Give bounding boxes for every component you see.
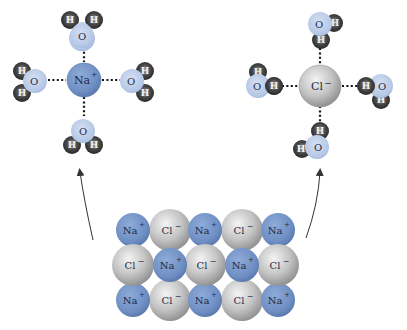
water-molecule-left: H H H O [246,63,283,98]
water-molecule-bottom: H H O [293,122,329,159]
hydrated-chloride-cluster: H H O H H H O H H O H [246,12,393,159]
water-molecule-top: H H O [61,11,103,51]
hydrogen-label: H [141,66,150,76]
nacl-crystal-lattice: Na + Cl − Na + Cl − Na + Na + Cl − Na + … [112,209,299,321]
cl-label: Cl [234,295,245,306]
na-label: Na [160,260,175,271]
hydrogen-label: H [316,126,325,136]
sodium-ion: Na + [67,63,101,97]
hydrogen-label: H [18,88,27,98]
cl-charge: − [175,222,182,231]
na-charge: + [284,291,290,299]
oxygen-label: O [127,76,135,87]
cl-label: Cl [234,225,245,236]
na-charge: + [139,291,145,299]
hydrogen-label: H [66,15,75,25]
oxygen-label: O [253,81,261,92]
na-label: Na [268,225,283,236]
arrow-to-sodium [80,172,93,240]
cl-charge: − [210,257,217,266]
water-molecule-right: H H O [357,74,393,109]
na-label: Na [123,295,138,306]
cl-label: Cl [270,260,281,271]
na-label: Na [268,295,283,306]
water-molecule-left: H H O [13,62,47,102]
na-charge: + [176,256,182,264]
na-charge: + [211,221,217,229]
cl-label: Cl [125,260,136,271]
water-molecule-bottom: H H O [63,119,103,154]
water-molecule-right: H H O [120,62,154,102]
na-label: Na [232,260,247,271]
oxygen-label: O [78,31,86,42]
hydrogen-label: H [68,140,77,150]
cl-charge: − [247,222,254,231]
na-label: Na [123,225,138,236]
cl-charge: − [283,257,290,266]
water-molecule-top: H H O [308,12,343,49]
na-label: Na [195,295,210,306]
hydrogen-label: H [90,140,99,150]
sodium-charge: + [91,70,98,79]
cl-label: Cl [162,295,173,306]
cl-label: Cl [197,260,208,271]
chloride-charge: − [324,78,332,88]
chloride-label: Cl [311,80,323,93]
hydrogen-label: H [362,81,371,91]
cl-charge: − [175,292,182,301]
chloride-ion: Cl − [299,65,341,107]
na-label: Na [195,225,210,236]
lattice-row-2: Cl − Na + Cl − Na + Cl − [112,244,299,286]
na-charge: + [211,291,217,299]
na-charge: + [248,256,254,264]
hydrogen-label: H [270,81,279,91]
oxygen-label: O [378,81,386,92]
nacl-dissolution-diagram: H H O H H O H H O H H [0,0,407,330]
arrow-to-chloride [306,172,320,238]
cl-charge: − [138,257,145,266]
hydrogen-label: H [331,18,340,28]
hydrogen-label: H [90,15,99,25]
cl-label: Cl [162,225,173,236]
sodium-label: Na [74,74,91,87]
hydrogen-label: H [297,144,306,154]
cl-charge: − [247,292,254,301]
oxygen-label: O [30,76,38,87]
oxygen-label: O [315,19,323,30]
na-charge: + [284,221,290,229]
oxygen-label: O [314,142,322,153]
hydrated-sodium-cluster: H H O H H O H H O H H [13,11,154,154]
oxygen-label: O [79,126,87,137]
hydrogen-label: H [317,35,326,45]
na-charge: + [139,221,145,229]
hydrogen-label: H [141,88,150,98]
